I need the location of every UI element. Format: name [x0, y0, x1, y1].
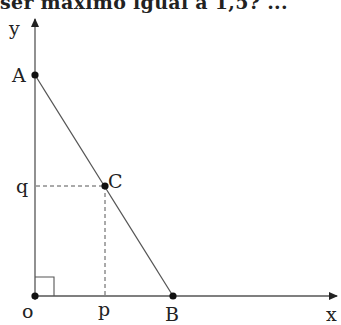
point-origin — [31, 292, 38, 299]
q-label: q — [16, 175, 28, 197]
point-b — [169, 292, 176, 299]
point-c-label: C — [108, 170, 123, 192]
right-angle-icon — [35, 277, 54, 296]
point-a-label: A — [11, 64, 26, 86]
x-axis-label: x — [326, 303, 337, 325]
coordinate-diagram: y x A C B o p q — [0, 0, 341, 325]
point-b-label: B — [165, 303, 179, 325]
y-axis-label: y — [8, 17, 20, 39]
point-a — [31, 71, 38, 78]
p-label: p — [98, 298, 110, 320]
origin-label: o — [22, 300, 33, 322]
